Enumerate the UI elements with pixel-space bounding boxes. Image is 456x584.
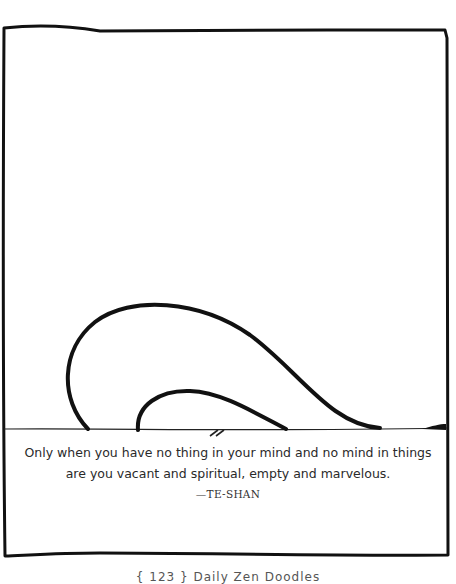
quote-line-2: are you vacant and spiritual, empty and … <box>0 466 456 481</box>
small-loop-curve <box>138 391 286 430</box>
quote-line-1: Only when you have no thing in your mind… <box>0 445 456 460</box>
tick-mark <box>210 430 224 436</box>
large-loop-curve <box>68 305 380 429</box>
right-edge-wedge <box>422 424 446 430</box>
quote-attribution: —TE-SHAN <box>0 488 456 500</box>
page-footer: { 123 } Daily Zen Doodles <box>0 570 456 584</box>
